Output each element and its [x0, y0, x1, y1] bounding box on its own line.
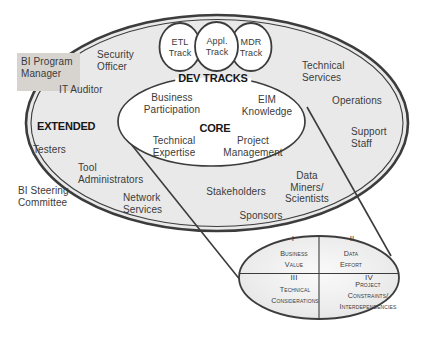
business-participation-label: Business Participation: [144, 92, 200, 115]
sponsors-label: Sponsors: [239, 210, 282, 222]
extended-zone-title: EXTENDED: [37, 120, 95, 132]
it-auditor-label: IT Auditor: [59, 84, 103, 96]
etl-track-label: ETL Track: [169, 37, 192, 58]
quadrant-2-label: Data Effort: [340, 249, 362, 271]
testers-label: Testers: [33, 144, 66, 156]
mdr-track-label: MDR Track: [240, 37, 263, 58]
quadrant-1-label: Business Value: [280, 249, 308, 271]
stakeholders-label: Stakeholders: [206, 186, 266, 198]
security-officer-label: Security Officer: [97, 49, 134, 72]
quadrant-4-label: Project Constraints/ Interdependencies: [338, 280, 398, 312]
data-miners-scientists-label: Data Miners/ Scientists: [285, 170, 329, 205]
technical-services-label: Technical Services: [302, 60, 345, 83]
network-services-label: Network Services: [123, 192, 162, 215]
support-staff-label: Support Staff: [351, 126, 387, 149]
quadrant-2-numeral: II: [350, 234, 355, 243]
quadrant-3-numeral: III: [291, 273, 298, 282]
project-management-label: Project Management: [223, 135, 282, 158]
eim-knowledge-label: EIM Knowledge: [242, 94, 292, 117]
dev-tracks-title: DEV TRACKS: [175, 72, 251, 84]
bi-program-manager-label: BI Program Manager: [21, 56, 80, 79]
quadrant-3-label: Technical Considerations: [271, 285, 319, 307]
tool-administrators-label: Tool Administrators: [78, 162, 143, 185]
appl-track-label: Appl. Track: [206, 36, 229, 57]
bi-program-organization-diagram: BI Program Manager BI Steering Committee…: [0, 0, 428, 342]
core-zone-title: CORE: [200, 122, 231, 134]
bi-steering-committee-label: BI Steering Committee: [18, 185, 69, 208]
technical-expertise-label: Technical Expertise: [153, 135, 196, 158]
operations-label: Operations: [332, 95, 382, 107]
quadrant-1-numeral: I: [292, 234, 294, 243]
